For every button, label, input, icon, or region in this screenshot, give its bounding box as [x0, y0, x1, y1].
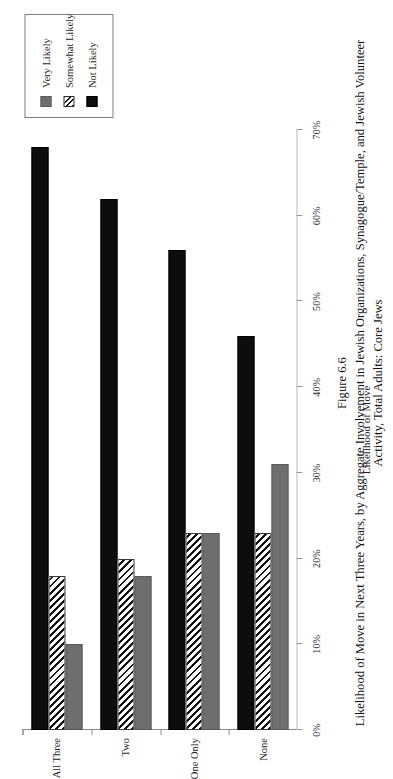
- bar-group: [31, 130, 82, 730]
- figure-caption: Figure 6.6 Likelihood of Move in Next Th…: [333, 0, 387, 766]
- value-tick: [296, 386, 302, 387]
- value-tick: [296, 129, 302, 130]
- value-tick: [296, 729, 302, 730]
- legend-swatch-not-likely-icon: [86, 96, 97, 107]
- value-tick: [296, 300, 302, 301]
- bar-very-likely: [134, 576, 151, 730]
- category-label: One Only: [188, 738, 199, 779]
- category-label: All Three: [51, 738, 62, 778]
- chart-plot-area: 0%10%20%30%40%50%60%70% NoneOne OnlyTwoA…: [22, 130, 297, 730]
- category-tick: [22, 729, 23, 735]
- bar-group: [237, 130, 288, 730]
- category-tick: [160, 729, 161, 735]
- value-tick: [296, 558, 302, 559]
- value-tick-label: 20%: [310, 549, 321, 568]
- legend-swatch-very-likely-icon: [40, 96, 51, 107]
- legend-item-very-likely: Very Likely: [34, 27, 57, 107]
- bar-not-likely: [237, 336, 254, 730]
- value-tick-label: 30%: [310, 463, 321, 482]
- bar-group: [100, 130, 151, 730]
- category-tick: [228, 729, 229, 735]
- bar-very-likely: [202, 533, 219, 730]
- legend-label-not-likely: Not Likely: [86, 42, 97, 88]
- figure-title: Likelihood of Move in Next Three Years, …: [351, 0, 387, 766]
- bar-not-likely: [168, 250, 185, 730]
- bar-somewhat-likely: [48, 576, 65, 730]
- bar-somewhat-likely: [117, 559, 134, 730]
- bar-very-likely: [65, 644, 82, 730]
- legend-item-not-likely: Not Likely: [80, 27, 103, 107]
- figure-number: Figure 6.6: [333, 0, 351, 766]
- value-tick: [296, 215, 302, 216]
- value-tick: [296, 643, 302, 644]
- value-tick-label: 10%: [310, 635, 321, 654]
- bar-not-likely: [31, 147, 48, 730]
- value-tick-label: 50%: [310, 292, 321, 311]
- legend-item-somewhat-likely: Somewhat Likely: [57, 27, 80, 107]
- value-axis-line: [296, 130, 297, 730]
- bar-somewhat-likely: [254, 533, 271, 730]
- bar-group: [168, 130, 219, 730]
- value-tick-label: 70%: [310, 121, 321, 140]
- value-tick-label: 60%: [310, 206, 321, 225]
- category-tick: [91, 729, 92, 735]
- bar-very-likely: [271, 464, 288, 730]
- category-label: None: [257, 738, 268, 761]
- bar-somewhat-likely: [185, 533, 202, 730]
- chart-legend: Very Likely Somewhat Likely Not Likely: [24, 14, 113, 118]
- legend-label-very-likely: Very Likely: [40, 38, 51, 88]
- value-tick-label: 0%: [310, 723, 321, 737]
- value-tick-label: 40%: [310, 378, 321, 397]
- value-tick: [296, 472, 302, 473]
- legend-label-somewhat-likely: Somewhat Likely: [63, 14, 74, 88]
- category-label: Two: [120, 738, 131, 757]
- legend-swatch-somewhat-likely-icon: [63, 96, 74, 107]
- bar-not-likely: [100, 199, 117, 730]
